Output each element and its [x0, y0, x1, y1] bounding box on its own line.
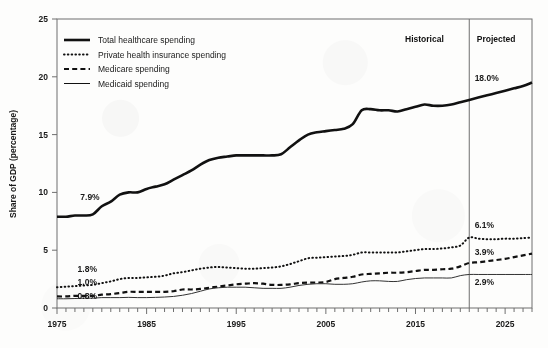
medicaid-2021-annotation: 2.9% [475, 277, 495, 287]
region-labels: HistoricalProjected [405, 34, 515, 44]
x-axis: 197519851995200520152025 [48, 308, 532, 329]
chart-figure: 0510152025 197519851995200520152025 Shar… [0, 0, 548, 348]
x-tick-label: 1995 [227, 319, 246, 329]
private-start-annotation: 1.8% [78, 264, 98, 274]
y-tick-label: 20 [39, 72, 49, 82]
data-series [57, 83, 532, 299]
historical-region-label: Historical [405, 34, 444, 44]
total-start-annotation: 7.9% [80, 192, 100, 202]
series-line [57, 237, 532, 287]
legend-label: Total healthcare spending [98, 35, 195, 45]
legend-label: Private health insurance spending [98, 50, 226, 60]
plot-frame [57, 19, 532, 308]
value-annotations: 7.9%18.0%1.8%1.0%0.8%6.1%3.9%2.9% [78, 73, 500, 301]
x-tick-label: 2015 [406, 319, 425, 329]
y-tick-label: 5 [43, 245, 48, 255]
chart-legend: Total healthcare spendingPrivate health … [64, 35, 226, 88]
x-tick-label: 2005 [316, 319, 335, 329]
legend-label: Medicare spending [98, 64, 170, 74]
x-tick-label: 1985 [137, 319, 156, 329]
x-tick-label: 1975 [48, 319, 67, 329]
x-tick-label: 2025 [496, 319, 515, 329]
y-tick-label: 25 [39, 14, 49, 24]
y-axis-title: Share of GDP (percentage) [8, 110, 18, 218]
legend-label: Medicaid spending [98, 79, 169, 89]
series-line [57, 83, 532, 217]
chart-svg: 0510152025 197519851995200520152025 Shar… [0, 0, 548, 348]
y-tick-label: 10 [39, 187, 49, 197]
medicare-2021-annotation: 3.9% [475, 247, 495, 257]
y-axis: 0510152025 [39, 14, 57, 313]
medicare-start-annotation: 1.0% [78, 277, 98, 287]
y-tick-label: 15 [39, 130, 49, 140]
y-tick-label: 0 [43, 303, 48, 313]
medicaid-start-annotation: 0.8% [78, 291, 98, 301]
total-2021-annotation: 18.0% [475, 73, 500, 83]
plot-border [57, 19, 532, 308]
projected-region-label: Projected [477, 34, 516, 44]
private-2021-annotation: 6.1% [475, 220, 495, 230]
